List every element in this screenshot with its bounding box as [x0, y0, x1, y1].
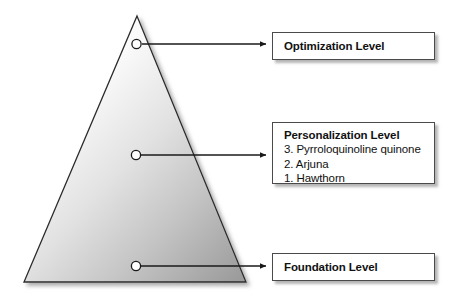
callout-item-1: 1. Hawthorn: [284, 171, 425, 186]
callout-title-foundation: Foundation Level: [284, 260, 378, 274]
pyramid-triangle-icon: [24, 16, 246, 282]
pyramid-shape: [24, 16, 246, 282]
optimization-marker-circle-icon[interactable]: [132, 39, 141, 48]
callout-item-2: 2. Arjuna: [284, 157, 425, 172]
callout-box-optimization[interactable]: Optimization Level: [272, 32, 435, 60]
personalization-marker-circle-icon[interactable]: [131, 150, 140, 159]
callout-item-3: 3. Pyrroloquinoline quinone: [284, 142, 425, 157]
foundation-marker-circle-icon[interactable]: [131, 261, 140, 270]
callout-box-foundation[interactable]: Foundation Level: [272, 253, 435, 281]
callout-title-optimization: Optimization Level: [284, 39, 384, 53]
callout-title-personalization: Personalization Level: [284, 128, 425, 142]
callout-box-personalization[interactable]: Personalization Level 3. Pyrroloquinolin…: [272, 122, 435, 184]
diagram-canvas: Optimization Level Personalization Level…: [0, 0, 460, 302]
